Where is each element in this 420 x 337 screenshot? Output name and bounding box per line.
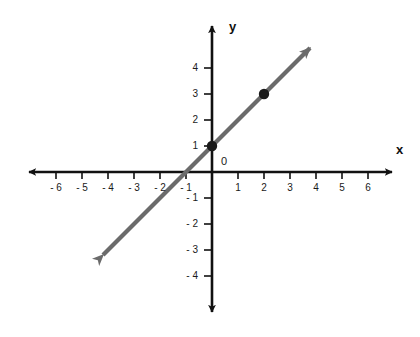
- y-tick-label-minus-3: - 3: [172, 245, 198, 255]
- data-point-2-3: [259, 89, 269, 99]
- x-tick-label-5: 5: [332, 183, 352, 193]
- x-tick-label-minus-3: - 3: [122, 183, 146, 193]
- y-tick-label-1: 1: [178, 141, 198, 151]
- x-tick-label-4: 4: [306, 183, 326, 193]
- y-tick-label-2: 2: [178, 115, 198, 125]
- x-axis-label: x: [396, 143, 403, 156]
- y-tick-label-minus-1: - 1: [172, 193, 198, 203]
- y-tick-label-minus-2: - 2: [172, 219, 198, 229]
- x-tick-label-1: 1: [228, 183, 248, 193]
- x-tick-label-minus-6: - 6: [44, 183, 68, 193]
- y-axis-label: y: [229, 20, 236, 33]
- x-tick-label-minus-2: - 2: [148, 183, 172, 193]
- y-tick-label-3: 3: [178, 89, 198, 99]
- x-tick-label-minus-4: - 4: [96, 183, 120, 193]
- y-tick-label-minus-4: - 4: [172, 271, 198, 281]
- x-tick-label-2: 2: [254, 183, 274, 193]
- x-tick-label-minus-5: - 5: [70, 183, 94, 193]
- origin-label: 0: [221, 156, 227, 167]
- graph-canvas: [0, 0, 420, 337]
- x-tick-label-3: 3: [280, 183, 300, 193]
- x-tick-label-6: 6: [358, 183, 378, 193]
- coordinate-plane-figure: y x 0 - 6 - 5 - 4 - 3 - 2 - 1 1 2 3 4 5 …: [0, 0, 420, 337]
- data-point-0-1: [207, 141, 217, 151]
- y-tick-label-4: 4: [178, 63, 198, 73]
